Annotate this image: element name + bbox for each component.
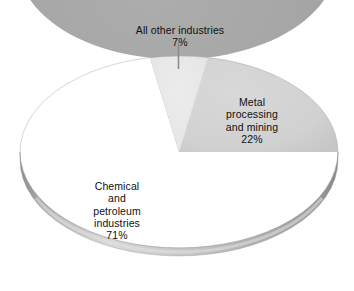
slice-label-chemical-and-petroleum-industries-text: Chemical and petroleum industries <box>93 180 141 229</box>
slice-label-all-other-industries: All other industries 7% <box>95 12 265 61</box>
slice-label-chemical-and-petroleum-industries: Chemical and petroleum industries 71% <box>62 168 172 253</box>
slice-value-chemical-and-petroleum-industries: 71% <box>62 229 172 241</box>
slice-label-metal-processing-and-mining: Metal processing and mining 22% <box>200 84 304 157</box>
slice-label-metal-processing-and-mining-text: Metal processing and mining <box>226 96 278 132</box>
slice-label-all-other-industries-text: All other industries <box>136 24 224 36</box>
pie-chart-figure: All other industries 7% Metal processing… <box>0 0 354 291</box>
slice-value-metal-processing-and-mining: 22% <box>200 133 304 145</box>
slice-value-all-other-industries: 7% <box>95 36 265 48</box>
